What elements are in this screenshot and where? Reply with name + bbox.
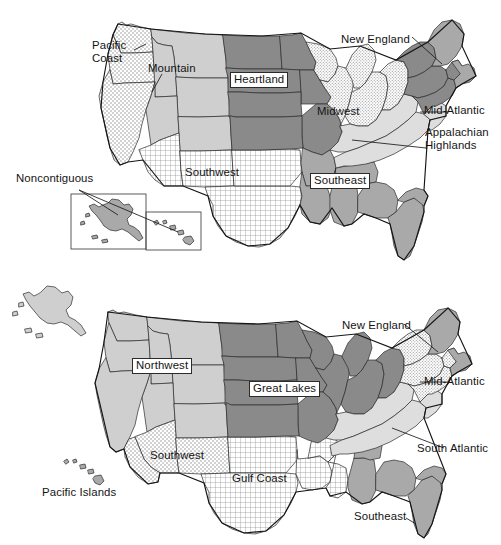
label-midwest[interactable]: Midwest [317,105,359,118]
label-new-england-bottom[interactable]: New England [342,319,411,332]
region-alaska-bottom[interactable] [13,286,86,338]
label-mountain[interactable]: Mountain [148,62,196,75]
label-pacific-coast[interactable]: Pacific Coast [92,39,126,65]
label-southeast[interactable]: Southeast [310,173,370,189]
label-appalachian-line1: Appalachian [425,126,489,139]
label-appalachian-line2: Highlands [425,139,489,152]
map-eight-region: Pacific Islands Northwest Southwest Grea… [0,272,501,545]
region-pacific-islands[interactable] [64,459,104,485]
label-great-lakes[interactable]: Great Lakes [249,381,320,397]
label-heartland[interactable]: Heartland [230,72,288,88]
map-nine-region: Pacific Coast Mountain Noncontiguous Sou… [0,0,501,272]
label-mid-atlantic-bottom[interactable]: Mid-Atlantic [424,375,485,388]
label-southeast-bottom[interactable]: Southeast [354,510,406,523]
label-appalachian-highlands[interactable]: Appalachian Highlands [425,126,489,152]
label-mid-atlantic[interactable]: Mid-Atlantic [424,104,485,117]
label-pacific-islands[interactable]: Pacific Islands [42,486,116,499]
label-new-england[interactable]: New England [341,33,410,46]
label-noncontiguous[interactable]: Noncontiguous [16,172,93,185]
label-southwest-bottom[interactable]: Southwest [150,449,204,462]
label-southwest[interactable]: Southwest [185,166,239,179]
label-south-atlantic[interactable]: South Atlantic [417,442,488,455]
region-mountain[interactable] [146,29,232,151]
label-pacific-coast-line1: Pacific [92,39,126,52]
label-northwest[interactable]: Northwest [132,358,192,374]
label-pacific-coast-line2: Coast [92,52,126,65]
region-southwest[interactable] [139,133,302,247]
map-bottom-svg [0,272,501,545]
inset-hawaii[interactable] [146,212,201,250]
label-gulf-coast[interactable]: Gulf Coast [232,472,287,485]
region-southeast[interactable] [300,148,428,260]
figure-canvas: Pacific Coast Mountain Noncontiguous Sou… [0,0,501,545]
